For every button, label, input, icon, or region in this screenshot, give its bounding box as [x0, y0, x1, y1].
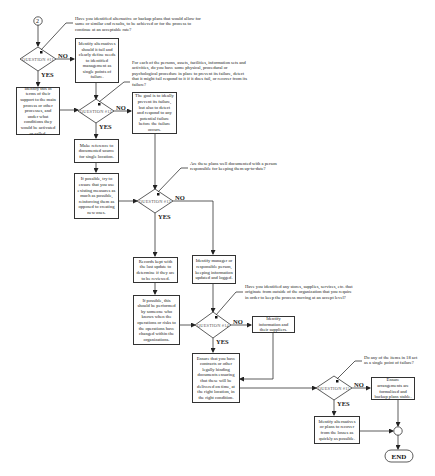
question-15-label: QUESTION #15 [318, 386, 351, 391]
box-text: Records kept with the last update to det… [136, 259, 175, 281]
question-12-label: QUESTION #12 [80, 109, 112, 114]
q15-no-label: NO [354, 381, 364, 388]
question-14-label: QUESTION #14 [197, 323, 230, 328]
box-text: The goal is to ideally prevent its failu… [135, 93, 174, 132]
q14-yes-label: YES [216, 338, 229, 345]
box-identify-support: Identify this in terms of their support … [16, 87, 60, 135]
box-identify-recovery: Identify alternatives or plans to recove… [314, 416, 360, 444]
box-text: Make reference to documented source for … [77, 143, 116, 160]
box-ensure-arrangements: Ensure arrangements are formalized and b… [371, 377, 415, 400]
box-text: Identify alternatives should it fail and… [78, 41, 116, 80]
q11-yes-label: YES [41, 71, 54, 78]
q11-no-label: NO [58, 52, 68, 59]
box-prevent-failure: The goal is to ideally prevent its failu… [132, 92, 177, 134]
box-text: Ensure arrangements are formalized and b… [374, 377, 412, 399]
box-text: Ensure that you have contracts or other … [195, 356, 237, 401]
q14-no-label: NO [233, 318, 243, 325]
box-text: Identify alternatives or plans to recove… [317, 419, 357, 441]
question-13-prompt: Are these plans well documented with a p… [190, 161, 295, 172]
question-12-prompt: For each of the persons, assets, facilit… [132, 60, 247, 87]
box-text: If possible, this should be performed by… [136, 298, 177, 343]
end-terminator-label: END [392, 453, 407, 461]
question-11-label: QUESTION #11 [22, 57, 54, 62]
question-11-prompt: Have you identified alternative or backu… [75, 16, 205, 32]
question-14-prompt: Have you identified any stores, supplies… [245, 284, 355, 300]
q13-no-label: NO [175, 194, 185, 201]
box-performed-by-someone: If possible, this should be performed by… [133, 295, 180, 345]
q12-no-label: NO [116, 104, 126, 111]
box-text: If possible, try to ensure that you use … [77, 176, 116, 215]
question-13-label: QUESTION #13 [139, 199, 172, 204]
q13-yes-label: YES [158, 213, 171, 220]
question-15-prompt: Do any of the items in 18 act as a singl… [364, 355, 422, 366]
start-connector-label: 2 [36, 18, 39, 24]
box-identify-alternatives: Identify alternatives should it fail and… [75, 38, 119, 83]
box-identify-information: Identify information and their suppliers… [252, 316, 295, 333]
box-existing-measures: If possible, try to ensure that you use … [74, 173, 119, 219]
q12-yes-label: YES [99, 123, 112, 130]
box-ensure-contracts: Ensure that you have contracts or other … [192, 353, 240, 403]
box-make-reference: Make reference to documented source for … [74, 139, 119, 163]
q15-yes-label: YES [337, 400, 350, 407]
box-identify-manager: Identify manager or responsible person, … [192, 255, 236, 284]
box-text: Identify manager or responsible person, … [195, 258, 233, 280]
box-text: Identify information and their suppliers… [255, 316, 292, 333]
box-records-kept: Records kept with the last update to det… [133, 257, 178, 283]
box-text: Identify this in terms of their support … [19, 86, 57, 136]
